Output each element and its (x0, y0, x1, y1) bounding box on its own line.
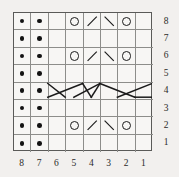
chart-cell-r8-c1[interactable] (136, 13, 153, 30)
chart-cell-r7-c1[interactable] (136, 30, 153, 47)
purl-dot-icon (20, 19, 25, 24)
chart-cell-r1-c6[interactable] (49, 135, 66, 152)
chart-cell-r8-c5[interactable] (66, 13, 83, 30)
yarn-over-icon (70, 51, 79, 60)
chart-cell-r7-c4[interactable] (84, 30, 101, 47)
chart-cell-r8-c4[interactable] (84, 13, 101, 30)
chart-cell-r4-c7[interactable] (31, 83, 48, 100)
chart-cell-r8-c7[interactable] (31, 13, 48, 30)
chart-cell-r3-c4[interactable] (84, 100, 101, 117)
purl-dot-icon (37, 88, 42, 93)
chart-cell-r1-c5[interactable] (66, 135, 83, 152)
chart-cell-r4-c4[interactable] (84, 83, 101, 100)
chart-cell-r4-c8[interactable] (14, 83, 31, 100)
column-label-5: 5 (65, 155, 82, 171)
chart-cell-r1-c7[interactable] (31, 135, 48, 152)
chart-cell-r3-c3[interactable] (101, 100, 118, 117)
column-label-1: 1 (135, 155, 152, 171)
purl-dot-icon (20, 54, 25, 59)
chart-cell-r2-c8[interactable] (14, 117, 31, 134)
chart-cell-r2-c3[interactable] (101, 117, 118, 134)
chart-cell-r2-c5[interactable] (66, 117, 83, 134)
chart-cell-r7-c6[interactable] (49, 30, 66, 47)
purl-dot-icon (37, 123, 42, 128)
chart-cell-r7-c5[interactable] (66, 30, 83, 47)
chart-cell-r6-c1[interactable] (136, 48, 153, 65)
chart-cell-r6-c5[interactable] (66, 48, 83, 65)
purl-dot-icon (37, 71, 42, 76)
chart-cell-r5-c4[interactable] (84, 65, 101, 82)
chart-cell-r8-c6[interactable] (49, 13, 66, 30)
chart-cell-r8-c2[interactable] (118, 13, 135, 30)
purl-dot-icon (37, 54, 42, 59)
chart-cell-r5-c1[interactable] (136, 65, 153, 82)
backslash-icon (101, 13, 117, 29)
chart-cell-r6-c2[interactable] (118, 48, 135, 65)
purl-dot-icon (37, 19, 42, 24)
chart-cell-r6-c8[interactable] (14, 48, 31, 65)
column-label-3: 3 (100, 155, 117, 171)
purl-dot-icon (37, 141, 42, 146)
chart-cell-r3-c6[interactable] (49, 100, 66, 117)
chart-cell-r2-c4[interactable] (84, 117, 101, 134)
yarn-over-icon (122, 121, 131, 130)
purl-dot-icon (20, 36, 25, 41)
row-label-8: 8 (157, 12, 175, 29)
chart-cell-r5-c6[interactable] (49, 65, 66, 82)
chart-cell-r3-c7[interactable] (31, 100, 48, 117)
row-axis-labels: 87654321 (157, 12, 175, 151)
chart-cell-r3-c5[interactable] (66, 100, 83, 117)
purl-dot-icon (20, 71, 25, 76)
chart-cell-r6-c3[interactable] (101, 48, 118, 65)
chart-cell-r7-c7[interactable] (31, 30, 48, 47)
chart-cell-r5-c8[interactable] (14, 65, 31, 82)
purl-dot-icon (20, 88, 25, 93)
row-label-1: 1 (157, 134, 175, 151)
chart-cell-r4-c6[interactable] (49, 83, 66, 100)
chart-cell-r7-c2[interactable] (118, 30, 135, 47)
yarn-over-icon (122, 51, 131, 60)
row-label-2: 2 (157, 116, 175, 133)
chart-cell-r2-c1[interactable] (136, 117, 153, 134)
row-label-7: 7 (157, 29, 175, 46)
chart-cell-r6-c4[interactable] (84, 48, 101, 65)
chart-cell-r7-c3[interactable] (101, 30, 118, 47)
chart-grid (13, 12, 152, 151)
chart-cell-r2-c7[interactable] (31, 117, 48, 134)
chart-cell-r3-c1[interactable] (136, 100, 153, 117)
column-axis-labels: 87654321 (13, 155, 152, 171)
purl-dot-icon (20, 141, 25, 146)
purl-dot-icon (37, 106, 42, 111)
chart-cell-r8-c3[interactable] (101, 13, 118, 30)
row-label-4: 4 (157, 82, 175, 99)
chart-cell-r4-c3[interactable] (101, 83, 118, 100)
chart-cell-r5-c2[interactable] (118, 65, 135, 82)
chart-cell-r4-c1[interactable] (136, 83, 153, 100)
chart-cell-r1-c3[interactable] (101, 135, 118, 152)
chart-cell-r3-c2[interactable] (118, 100, 135, 117)
column-label-7: 7 (30, 155, 47, 171)
chart-cell-r8-c8[interactable] (14, 13, 31, 30)
chart-cell-r7-c8[interactable] (14, 30, 31, 47)
chart-grid-wrapper (13, 12, 152, 151)
yarn-over-icon (70, 17, 79, 26)
backslash-icon (101, 48, 117, 64)
chart-cell-r6-c7[interactable] (31, 48, 48, 65)
chart-cell-r4-c5[interactable] (66, 83, 83, 100)
chart-cell-r6-c6[interactable] (49, 48, 66, 65)
chart-cell-r4-c2[interactable] (118, 83, 135, 100)
chart-cell-r3-c8[interactable] (14, 100, 31, 117)
row-label-6: 6 (157, 47, 175, 64)
chart-cell-r2-c2[interactable] (118, 117, 135, 134)
chart-cell-r1-c1[interactable] (136, 135, 153, 152)
chart-cell-r5-c5[interactable] (66, 65, 83, 82)
row-label-3: 3 (157, 99, 175, 116)
chart-cell-r5-c3[interactable] (101, 65, 118, 82)
chart-cell-r2-c6[interactable] (49, 117, 66, 134)
purl-dot-icon (20, 123, 25, 128)
chart-cell-r1-c2[interactable] (118, 135, 135, 152)
chart-cell-r1-c8[interactable] (14, 135, 31, 152)
chart-cell-r5-c7[interactable] (31, 65, 48, 82)
chart-cell-r1-c4[interactable] (84, 135, 101, 152)
column-label-2: 2 (117, 155, 134, 171)
